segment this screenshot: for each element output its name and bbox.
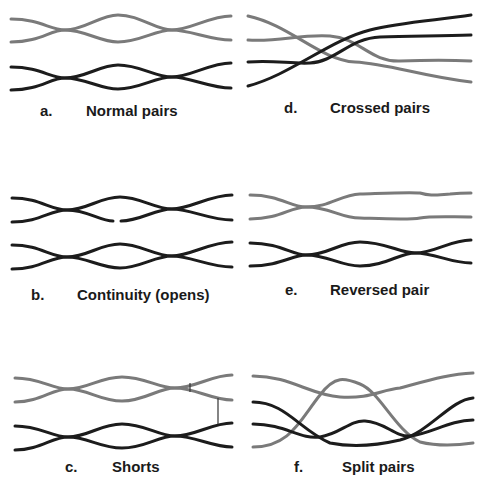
panel-e-wires (250, 193, 471, 266)
wire-black-1 (11, 63, 231, 78)
panel-b-letter: b. (31, 286, 44, 303)
panel-b-title: Continuity (opens) (77, 286, 209, 303)
panel-d-wires (248, 15, 471, 86)
wire-gray-1 (15, 375, 232, 389)
panel-d-title: Crossed pairs (330, 99, 430, 116)
wire-black-2b (121, 209, 232, 221)
wire-gray-2 (11, 30, 231, 42)
wire-gray-1 (250, 193, 471, 207)
wire-black-1 (12, 195, 232, 210)
wire-black-1 (250, 240, 471, 255)
panel-a-title: Normal pairs (86, 102, 178, 119)
panel-c-wires (15, 375, 232, 450)
wiring-diagram (0, 0, 485, 482)
panel-f-wires (253, 373, 473, 447)
panel-f-title: Split pairs (342, 458, 415, 475)
panel-d-letter: d. (284, 99, 297, 116)
wire-black-3 (12, 242, 232, 257)
wire-gray-2 (248, 36, 471, 61)
wire-black-2 (15, 436, 232, 450)
wire-black-4 (12, 256, 232, 269)
wire-black-2 (11, 77, 231, 90)
wire-gray-1 (11, 15, 231, 30)
panel-c-title: Shorts (112, 458, 160, 475)
panel-c-letter: c. (65, 458, 78, 475)
panel-e-letter: e. (285, 281, 298, 298)
wire-gray-2 (15, 388, 232, 402)
panel-e-title: Reversed pair (330, 281, 429, 298)
wire-black-1 (15, 423, 232, 437)
panel-a-letter: a. (40, 102, 53, 119)
wire-gray-2 (250, 207, 471, 219)
panel-f-letter: f. (294, 458, 303, 475)
wire-black-2a (12, 210, 113, 222)
panel-b-wires (12, 195, 232, 269)
panel-a-wires (11, 15, 231, 90)
wire-black-2 (250, 253, 471, 266)
